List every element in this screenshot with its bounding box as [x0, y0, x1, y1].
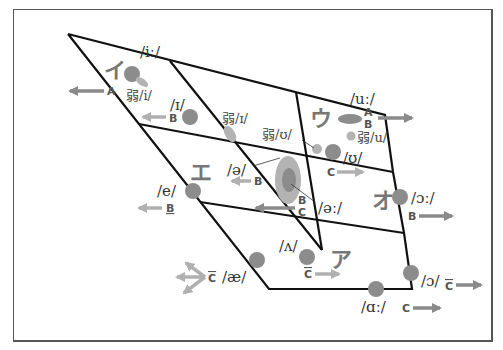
marker-a-ii: A: [107, 85, 116, 98]
kana-a: ア: [330, 247, 352, 272]
ipa-wedge: /ʌ/: [279, 237, 299, 255]
region-long-schwa: [282, 168, 296, 192]
ipa-open-o-long: /ɔː/: [411, 189, 436, 207]
arrow-ae-down: [184, 277, 205, 293]
dot-open-o-long: [392, 189, 408, 205]
marker-b-open-o-long: B: [408, 210, 416, 223]
marker-c-ae: C: [208, 272, 216, 285]
dot-open-o: [403, 265, 419, 281]
dot-aa: [368, 281, 384, 297]
dot-weak-upsilon: [312, 144, 322, 154]
dot-weak-u: [347, 132, 356, 141]
marker-b-uu: B: [364, 118, 372, 131]
kana-u: ウ: [310, 106, 332, 131]
dot-uu: [338, 114, 362, 124]
ipa-ae: /æ/: [222, 268, 247, 286]
dot-e: [185, 183, 201, 199]
dot-ae: [249, 252, 265, 268]
ipa-e: /e/: [157, 182, 177, 200]
vowel-chart-svg: イ ウ エ オ ア: [0, 0, 503, 350]
grid-line-front-central: [170, 61, 322, 250]
ipa-weak-short-i: 弱/ɪ/: [222, 111, 249, 126]
ipa-aa: /ɑː/: [361, 298, 387, 316]
kana-e: エ: [190, 160, 212, 185]
dot-wedge: [299, 249, 315, 265]
marker-c-open-o: C: [445, 280, 453, 293]
marker-b-schwa: B: [254, 175, 262, 188]
kana-i: イ: [104, 58, 126, 83]
vowel-chart-figure: イ ウ エ オ ア: [0, 0, 503, 350]
ipa-upsilon: /ʊ/: [343, 149, 363, 167]
ipa-schwa: /ə/: [227, 161, 247, 179]
marker-b-short-i: B: [169, 112, 177, 125]
leader-schwa: [253, 158, 280, 166]
marker-c-upsilon: C: [327, 166, 335, 179]
dot-upsilon: [325, 144, 341, 160]
ipa-open-o: /ɔ/: [421, 272, 440, 290]
ipa-weak-u: 弱/u/: [357, 130, 388, 145]
ipa-weak-upsilon: 弱/ʊ/: [262, 127, 292, 142]
marker-c-long-schwa: C: [298, 206, 306, 219]
marker-b-e: B: [166, 202, 174, 215]
ipa-ii: /iː/: [140, 43, 161, 61]
ipa-long-schwa: /əː/: [318, 199, 343, 217]
kana-o: オ: [372, 188, 394, 213]
ipa-weak-i: 弱/i/: [126, 88, 153, 103]
marker-c-wedge: C: [304, 268, 312, 281]
marker-c-aa: C: [402, 302, 410, 315]
arrow-ae-up: [186, 263, 205, 277]
